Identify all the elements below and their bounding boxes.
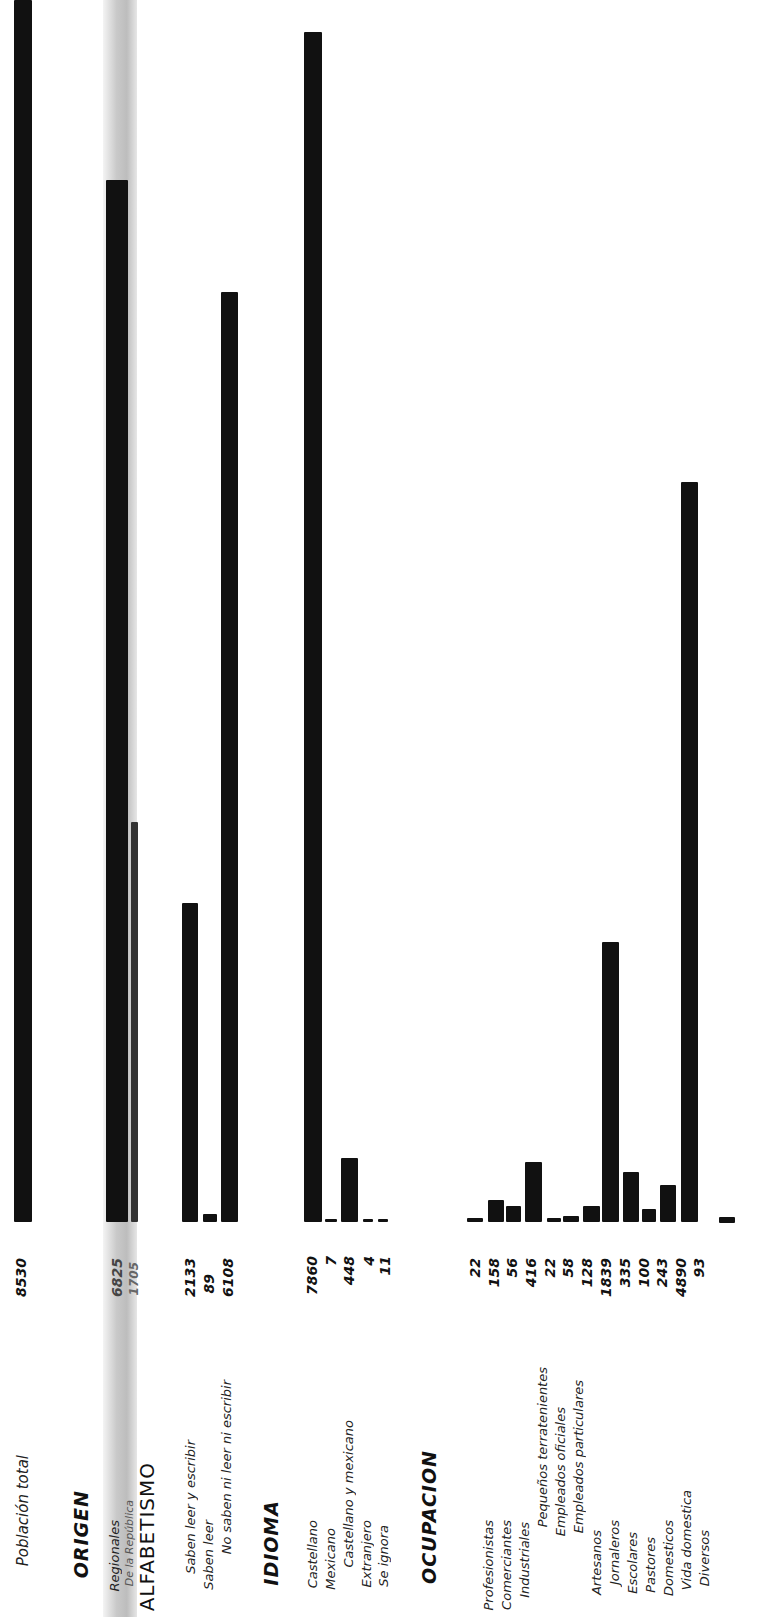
value-artesanos: 128 [580,1258,594,1287]
value-pequenos-terratenientes: 416 [524,1258,538,1287]
label-empleados-particulares: Empleados particulares [572,1380,585,1533]
value-saben-leer: 89 [202,1274,216,1293]
value-poblacion-total: 8530 [14,1258,28,1297]
label-pequenos-terratenientes: Pequeños terratenientes [536,1367,549,1527]
bar-profesionistas [467,1218,483,1222]
label-empleados-oficiales: Empleados oficiales [554,1407,567,1536]
bar-se-ignora [378,1219,388,1222]
section-title-origen: ORIGEN [72,1490,91,1578]
label-jornaleros: Jornaleros [608,1520,621,1585]
value-industriales: 56 [505,1258,519,1277]
label-se-ignora: Se ignora [377,1525,390,1587]
value-pastores: 100 [637,1258,651,1287]
value-castellano-mexicano: 448 [342,1256,356,1285]
label-profesionistas: Profesionistas [482,1520,495,1611]
bar-artesanos [583,1206,600,1222]
value-origen-regionales: 6825 [110,1258,124,1297]
value-saben-leer-escribir: 2133 [183,1258,197,1297]
section-title-ocupacion: OCUPACION [420,1450,439,1584]
value-jornaleros: 1839 [599,1258,613,1297]
label-origen-republica: De la República [124,1500,135,1586]
label-comerciantes: Comerciantes [500,1520,513,1610]
value-domesticos: 243 [655,1258,669,1287]
section-title-alfabetismo: ALFABETISMO [137,1462,157,1611]
section-title-idioma: IDIOMA [262,1500,281,1586]
label-saben-leer-escribir: Saben leer y escribir [184,1440,197,1574]
label-origen-regionales: Regionales [108,1520,121,1591]
bar-origen-republica [131,822,138,1222]
value-no-saben: 6108 [221,1258,235,1297]
bar-extranjero [363,1219,373,1222]
label-castellano-mexicano: Castellano y mexicano [342,1420,355,1568]
label-escolares: Escolares [626,1532,639,1594]
value-comerciantes: 158 [487,1258,501,1287]
bar-origen-regionales [106,180,128,1222]
label-mexicano: Mexicano [324,1528,337,1590]
bar-escolares [623,1172,639,1222]
bar-no-saben [221,292,238,1222]
label-pastores: Pastores [644,1537,657,1593]
bar-comerciantes [488,1200,504,1222]
bar-diversos [719,1217,735,1223]
bar-jornaleros [602,942,619,1222]
label-vida-domestica: Vida domestica [680,1490,693,1590]
bar-pequenos-terratenientes [525,1162,542,1222]
value-diversos: 93 [692,1258,706,1277]
bar-saben-leer [203,1214,217,1222]
label-domesticos: Domesticos [662,1520,675,1596]
label-artesanos: Artesanos [590,1530,603,1595]
bar-castellano [304,32,322,1222]
label-extranjero: Extranjero [360,1520,373,1587]
value-escolares: 335 [618,1258,632,1287]
value-empleados-oficiales: 22 [543,1258,557,1277]
value-vida-domestica: 4890 [674,1258,688,1297]
bar-empleados-particulares [563,1216,579,1222]
value-origen-republica: 1705 [128,1262,140,1295]
value-se-ignora: 11 [378,1256,392,1275]
value-castellano: 7860 [305,1256,319,1295]
label-poblacion-total: Población total [16,1455,31,1566]
value-empleados-particulares: 58 [561,1258,575,1277]
bar-empleados-oficiales [547,1218,561,1222]
label-industriales: Industriales [518,1522,531,1598]
bar-saben-leer-escribir [182,903,198,1222]
label-castellano: Castellano [306,1520,319,1588]
bar-castellano-mexicano [341,1158,358,1222]
bar-vida-domestica [681,482,698,1222]
bar-pastores [642,1209,656,1222]
label-saben-leer: Saben leer [202,1520,215,1590]
bar-industriales [506,1206,521,1222]
bar-domesticos [660,1185,676,1222]
value-mexicano: 7 [324,1256,338,1266]
bar-mexicano [325,1219,337,1222]
label-no-saben: No saben ni leer ni escribir [220,1380,233,1554]
label-diversos: Diversos [698,1530,711,1586]
bar-poblacion-total [14,0,32,1222]
value-extranjero: 4 [362,1256,376,1266]
value-profesionistas: 22 [468,1258,482,1277]
